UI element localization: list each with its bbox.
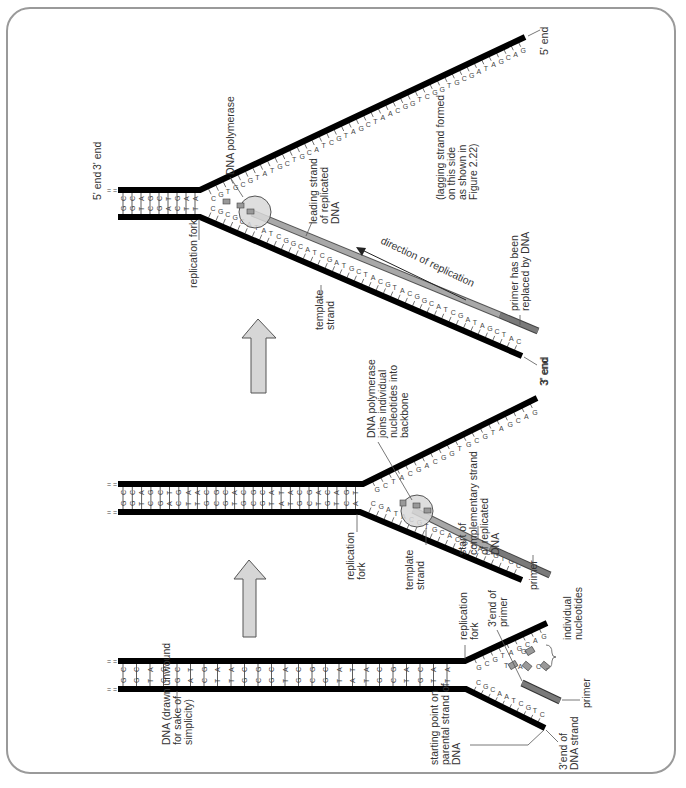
- base-letter: C: [250, 501, 257, 506]
- base-stub: [376, 511, 378, 516]
- base-stub: [325, 263, 327, 268]
- base-letter: G: [259, 501, 266, 506]
- base-stub: [420, 304, 422, 309]
- step-arrow-1: [234, 560, 266, 637]
- base-letter: G: [432, 526, 437, 533]
- label-p1-strand-end: 3'end ofDNA strand: [557, 716, 580, 770]
- base-stub: [334, 130, 336, 135]
- label-p3-template: templatestrand: [313, 290, 336, 330]
- base-letter: T: [255, 174, 260, 181]
- base-letter: G: [441, 454, 446, 461]
- base-letter: G: [248, 177, 253, 184]
- label-p3-5end: 5' end: [538, 27, 550, 55]
- base-stub: [282, 154, 284, 159]
- base-letter: T: [226, 188, 231, 195]
- base-letter: G: [283, 237, 288, 244]
- base-letter: A: [386, 506, 391, 513]
- base-letter: G: [120, 501, 127, 506]
- base-stub: [216, 216, 218, 221]
- base-letter: G: [175, 490, 182, 495]
- base-letter: A: [263, 170, 268, 177]
- base-letter: T: [231, 501, 238, 506]
- base-letter: C: [307, 149, 312, 156]
- base-letter: A: [381, 114, 386, 121]
- base-letter: G: [174, 196, 181, 201]
- base-letter: A: [371, 274, 376, 281]
- base-letter: G: [296, 501, 303, 506]
- base-stub: [356, 119, 358, 124]
- base-letter: T: [192, 206, 199, 211]
- base-letter: A: [424, 462, 429, 469]
- base-letter: A: [524, 413, 529, 420]
- base-letter: T: [501, 652, 506, 659]
- base-letter: G: [521, 648, 526, 655]
- base-letter: C: [156, 196, 163, 201]
- base-letter: C: [516, 417, 521, 424]
- base-letter: A: [400, 287, 405, 294]
- free-nucleotide: [540, 661, 550, 671]
- base-stub: [209, 213, 211, 218]
- base-letter: A: [138, 196, 145, 201]
- base-stub: [246, 172, 248, 177]
- base-letter: T: [352, 490, 359, 495]
- base-letter: G: [385, 281, 390, 288]
- base-stub: [484, 556, 486, 561]
- label-p3-polymerase: DNA polymerase: [224, 96, 236, 175]
- base-letter: G: [541, 633, 546, 640]
- nucleotide-block: [424, 508, 431, 513]
- base-letter: G: [376, 678, 383, 683]
- base-stub: [438, 537, 440, 542]
- base-letter: G: [309, 667, 316, 672]
- base-letter: A: [465, 316, 470, 323]
- base-letter: G: [469, 72, 474, 79]
- base-stub: [305, 144, 307, 149]
- base-letter: T: [533, 707, 538, 714]
- base-letter: C: [259, 490, 266, 495]
- base-stub: [445, 540, 447, 545]
- base-letter: G: [174, 678, 181, 683]
- base-letter: G: [390, 667, 397, 672]
- base-stub: [267, 238, 269, 243]
- label-line: Figure 2.22): [467, 143, 479, 200]
- base-letter: A: [185, 490, 192, 495]
- base-letter: G: [241, 678, 248, 683]
- label-line: backbone: [398, 392, 410, 438]
- base-letter: A: [262, 227, 267, 234]
- base-letter: C: [296, 490, 303, 495]
- base-letter: C: [440, 529, 445, 536]
- base-letter: G: [403, 103, 408, 110]
- base-stub: [332, 266, 334, 271]
- base-letter: C: [366, 121, 371, 128]
- nucleotide-block: [237, 203, 244, 208]
- base-stub: [456, 320, 458, 325]
- base-letter: T: [187, 667, 194, 672]
- base-letter: A: [491, 61, 496, 68]
- base-letter: T: [166, 490, 173, 495]
- base-stub: [274, 241, 276, 246]
- base-letter: A: [282, 667, 289, 672]
- base-letter: T: [444, 678, 451, 683]
- base-letter: C: [324, 490, 331, 495]
- base-letter: T: [269, 230, 274, 237]
- base-stub: [327, 133, 329, 138]
- base-letter: C: [147, 206, 154, 211]
- base-stub: [238, 175, 240, 180]
- base-letter: C: [295, 667, 302, 672]
- base-letter: G: [277, 163, 282, 170]
- base-letter: G: [129, 206, 136, 211]
- base-letter: T: [363, 678, 370, 683]
- base-letter: G: [306, 490, 313, 495]
- base-letter: C: [495, 328, 500, 335]
- base-stub: [415, 527, 417, 532]
- base-stub: [376, 285, 378, 290]
- base-letter: A: [268, 490, 275, 495]
- label-p1-fork: replicationfork: [457, 592, 480, 640]
- base-letter: T: [430, 678, 437, 683]
- base-letter: G: [410, 100, 415, 107]
- base-stub: [371, 112, 373, 117]
- base-stub: [252, 232, 254, 237]
- label-p2-fork: replicationfork: [344, 532, 367, 580]
- base-letter: G: [507, 421, 512, 428]
- base-stub: [507, 566, 509, 571]
- base-letter: C: [433, 458, 438, 465]
